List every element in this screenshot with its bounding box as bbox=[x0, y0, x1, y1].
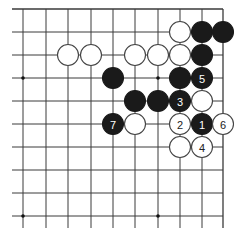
move-number: 1 bbox=[199, 119, 205, 131]
black-stone-icon bbox=[148, 91, 169, 112]
black-stone-icon bbox=[192, 22, 213, 43]
black-stone-move-3: 3 bbox=[170, 91, 191, 112]
black-stone bbox=[148, 91, 169, 112]
white-stone bbox=[125, 45, 146, 66]
white-stone bbox=[58, 45, 79, 66]
white-stone bbox=[170, 45, 191, 66]
white-stone bbox=[148, 45, 169, 66]
white-stone bbox=[170, 137, 191, 158]
move-number: 3 bbox=[177, 96, 183, 108]
black-stone-icon bbox=[125, 91, 146, 112]
white-stone bbox=[170, 22, 191, 43]
white-stone-move-6: 6 bbox=[213, 114, 234, 135]
go-board: 5372164 bbox=[0, 0, 237, 235]
black-stone bbox=[170, 68, 191, 89]
white-stone-move-4: 4 bbox=[192, 137, 213, 158]
white-stone-icon bbox=[148, 45, 169, 66]
white-stone-icon bbox=[125, 45, 146, 66]
move-number: 6 bbox=[220, 119, 226, 131]
move-number: 7 bbox=[110, 119, 116, 131]
white-stone-icon bbox=[192, 91, 213, 112]
black-stone bbox=[192, 45, 213, 66]
white-stone-icon bbox=[81, 45, 102, 66]
star-point bbox=[21, 214, 25, 218]
white-stone bbox=[81, 45, 102, 66]
black-stone-move-1: 1 bbox=[192, 114, 213, 135]
black-stone bbox=[103, 68, 124, 89]
white-stone bbox=[125, 114, 146, 135]
black-stone bbox=[213, 22, 234, 43]
white-stone-icon bbox=[58, 45, 79, 66]
black-stone-icon bbox=[192, 45, 213, 66]
black-stone-icon bbox=[103, 68, 124, 89]
black-stone-move-5: 5 bbox=[192, 68, 213, 89]
white-stone-icon bbox=[170, 137, 191, 158]
black-stone bbox=[125, 91, 146, 112]
move-number: 2 bbox=[177, 119, 183, 131]
white-stone bbox=[192, 91, 213, 112]
move-number: 5 bbox=[199, 73, 205, 85]
move-number: 4 bbox=[199, 142, 205, 154]
star-point bbox=[21, 76, 25, 80]
black-stone-icon bbox=[213, 22, 234, 43]
black-stone-icon bbox=[170, 68, 191, 89]
black-stone-move-7: 7 bbox=[103, 114, 124, 135]
black-stone bbox=[192, 22, 213, 43]
star-point bbox=[156, 214, 160, 218]
star-point bbox=[156, 76, 160, 80]
white-stone-move-2: 2 bbox=[170, 114, 191, 135]
white-stone-icon bbox=[170, 22, 191, 43]
white-stone-icon bbox=[170, 45, 191, 66]
white-stone-icon bbox=[125, 114, 146, 135]
stones-layer: 5372164 bbox=[58, 22, 234, 158]
